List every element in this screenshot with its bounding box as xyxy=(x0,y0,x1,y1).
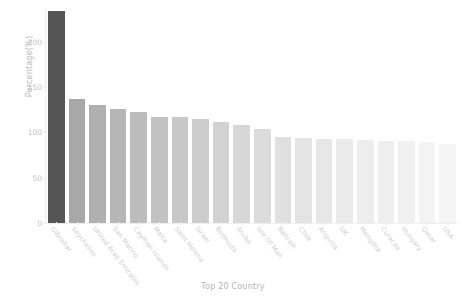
x-tick-mark xyxy=(427,222,428,225)
x-tick-mark xyxy=(242,222,243,225)
x-tick-mark xyxy=(180,222,181,225)
bar xyxy=(110,109,126,223)
y-tick-label: 200 xyxy=(28,37,42,46)
x-tick-label: USA xyxy=(440,225,455,241)
plot-area: 050100150200 xyxy=(46,10,458,223)
bar-chart-figure: Percentage(%) 050100150200 GibraltarSeyc… xyxy=(0,0,466,301)
x-tick-mark xyxy=(56,222,57,225)
bar xyxy=(378,141,394,223)
bar xyxy=(172,117,188,223)
bar xyxy=(336,139,352,223)
x-tick-mark xyxy=(221,222,222,225)
bar xyxy=(357,140,373,223)
x-tick-label: UK xyxy=(337,225,349,237)
x-tick-label: Chile xyxy=(296,225,313,243)
x-tick-mark xyxy=(304,222,305,225)
x-tick-mark xyxy=(201,222,202,225)
bar xyxy=(69,99,85,223)
x-tick-label: Qatar xyxy=(420,225,438,245)
x-tick-label: Anguilla xyxy=(317,225,340,252)
x-tick-mark xyxy=(77,222,78,225)
bar xyxy=(275,137,291,223)
bar xyxy=(130,112,146,223)
x-tick-label: Cayman Islands xyxy=(131,225,170,272)
bar xyxy=(151,117,167,223)
bar xyxy=(398,141,414,223)
x-tick-mark xyxy=(262,222,263,225)
x-tick-mark xyxy=(98,222,99,225)
x-tick-mark xyxy=(283,222,284,225)
x-tick-mark xyxy=(345,222,346,225)
x-tick-mark xyxy=(407,222,408,225)
x-tick-mark xyxy=(118,222,119,225)
bar xyxy=(48,11,64,223)
bar xyxy=(213,122,229,224)
bar xyxy=(295,138,311,223)
bar xyxy=(316,139,332,223)
y-tick-label: 100 xyxy=(28,128,42,137)
bar xyxy=(233,125,249,223)
x-tick-mark xyxy=(324,222,325,225)
x-tick-mark xyxy=(365,222,366,225)
x-axis-label: Top 20 Country xyxy=(0,282,466,291)
y-axis-label: Percentage(%) xyxy=(25,12,34,122)
bar-series xyxy=(46,10,458,223)
x-tick-label: Bahrain xyxy=(276,225,298,251)
x-tick-mark xyxy=(448,222,449,225)
y-tick-label: 50 xyxy=(32,173,42,182)
x-tick-label: Malta xyxy=(152,225,170,245)
bar xyxy=(89,105,105,223)
x-tick-mark xyxy=(386,222,387,225)
x-tick-label: Israel xyxy=(193,225,211,245)
y-tick-label: 0 xyxy=(37,219,42,228)
bar xyxy=(254,129,270,223)
bar xyxy=(192,119,208,223)
y-tick-label: 150 xyxy=(28,83,42,92)
bar xyxy=(419,142,435,223)
x-axis-spine xyxy=(45,223,458,224)
x-tick-mark xyxy=(159,222,160,225)
bar xyxy=(439,144,455,223)
x-tick-mark xyxy=(139,222,140,225)
x-tick-label: Aruba xyxy=(234,225,253,246)
